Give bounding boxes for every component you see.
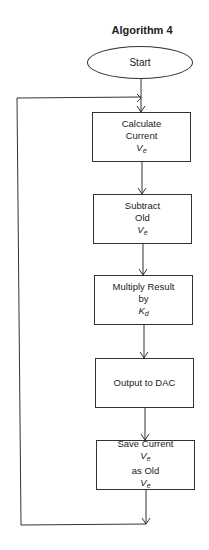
step-output-dac: Output to DAC xyxy=(95,358,194,408)
start-node: Start xyxy=(87,46,193,79)
step-text: Subtract xyxy=(125,200,160,212)
step-subtract-old: Subtract Old Ve xyxy=(93,194,192,244)
step-calculate-current: Calculate Current Ve xyxy=(92,112,191,162)
step-text: as Old Ve xyxy=(118,465,174,492)
step-text: Output to DAC xyxy=(114,377,176,389)
step-text: Save Current Ve xyxy=(118,438,174,465)
start-label: Start xyxy=(129,57,150,68)
diagram-title: Algorithm 4 xyxy=(90,24,194,36)
step-text: Old Ve xyxy=(125,212,160,239)
step-text: Calculate xyxy=(122,118,162,130)
step-multiply-result: Multiply Result by Kd xyxy=(94,275,193,325)
step-text: Current Ve xyxy=(122,130,162,157)
step-save-current: Save Current Ve as Old Ve xyxy=(96,440,195,490)
step-text: Multiply Result xyxy=(113,281,175,293)
step-text: by Kd xyxy=(113,293,175,320)
